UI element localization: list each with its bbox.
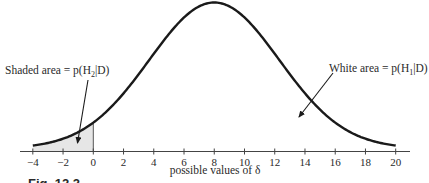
label-shaded-area: Shaded area = p(H2|D) xyxy=(5,64,110,79)
shaded-area-h2 xyxy=(33,123,93,152)
x-tick-label: 0 xyxy=(91,156,97,168)
figure-caption: Fig. 12.2 xyxy=(28,176,80,183)
normal-curve-figure: −4−202468101214161820 Shaded area = p(H2… xyxy=(0,0,429,183)
x-tick-label: 16 xyxy=(330,156,342,168)
x-tick-label: 20 xyxy=(390,156,402,168)
x-axis-label: possible values of δ xyxy=(170,164,261,177)
x-tick-label: 2 xyxy=(121,156,127,168)
x-tick-label: 18 xyxy=(360,156,372,168)
x-tick-label: 4 xyxy=(151,156,157,168)
arrow-white-pointer xyxy=(299,73,333,117)
x-tick-label: −2 xyxy=(57,156,69,168)
x-tick-label: 12 xyxy=(269,156,280,168)
label-white-area: White area = p(H1|D) xyxy=(329,62,428,77)
x-tick-label: −4 xyxy=(27,156,39,168)
x-tick-label: 14 xyxy=(299,156,311,168)
